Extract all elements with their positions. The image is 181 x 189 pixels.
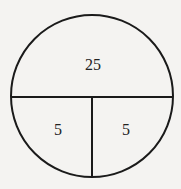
region-label-top: 25 (85, 56, 101, 74)
region-label-bottom-right: 5 (122, 121, 130, 139)
region-label-bottom-left: 5 (54, 121, 62, 139)
circle-diagram (0, 0, 181, 189)
